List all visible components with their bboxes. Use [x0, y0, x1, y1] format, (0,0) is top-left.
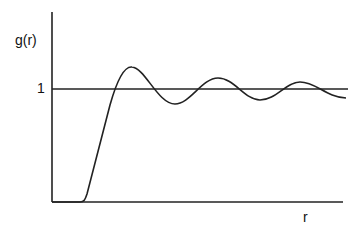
- x-axis-label: r: [303, 209, 308, 225]
- y-axis-label: g(r): [15, 32, 37, 48]
- y-tick-1: 1: [37, 80, 45, 96]
- rdf-curve: [52, 67, 346, 202]
- rdf-chart: g(r) 1 r: [0, 0, 359, 230]
- chart-plot: [0, 0, 359, 230]
